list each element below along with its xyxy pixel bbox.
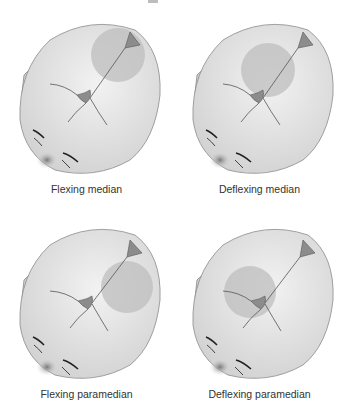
position-circle: [101, 261, 153, 313]
nose: [36, 151, 58, 169]
position-circle: [241, 43, 295, 97]
infant-head-illustration: [0, 0, 173, 205]
panel-flexing-paramedian: Flexing paramedian: [0, 205, 173, 410]
infant-head-illustration: [0, 205, 173, 410]
position-circle: [91, 28, 145, 82]
nose: [209, 358, 231, 376]
nose: [209, 151, 231, 169]
panel-caption: Deflexing median: [173, 183, 346, 195]
infant-head-illustration: [173, 205, 346, 410]
panel-deflexing-paramedian: Deflexing paramedian: [173, 205, 346, 410]
panel-caption: Flexing median: [0, 183, 173, 195]
nose: [36, 358, 58, 376]
panel-caption: Deflexing paramedian: [173, 388, 346, 400]
panel-deflexing-median: Deflexing median: [173, 0, 346, 205]
panel-flexing-median: Flexing median: [0, 0, 173, 205]
panel-caption: Flexing paramedian: [0, 388, 173, 400]
infant-head-illustration: [173, 0, 346, 205]
